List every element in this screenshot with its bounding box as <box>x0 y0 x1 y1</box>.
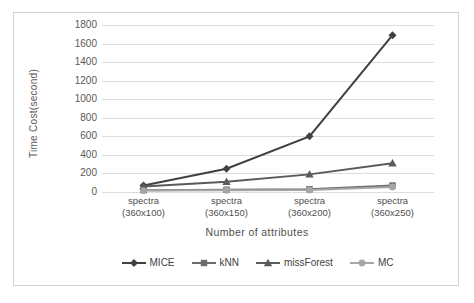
x-axis-tick-label-line1: spectra <box>185 195 268 207</box>
x-axis-tick-label: spectra(360x100) <box>102 195 185 219</box>
data-point-marker <box>140 187 147 194</box>
gridline <box>102 192 434 193</box>
data-point-marker <box>389 183 396 190</box>
data-point-marker <box>223 165 231 173</box>
legend-item-mice[interactable]: MICE <box>121 257 175 268</box>
series-mice <box>140 31 397 189</box>
series-line <box>144 35 393 185</box>
x-axis-tick-label-line2: (360x250) <box>351 207 434 219</box>
x-axis-ticks: spectra(360x100)spectra(360x150)spectra(… <box>102 195 434 219</box>
y-axis-tick-label: 800 <box>80 113 97 123</box>
chart-legend: MICEkNNmissForestMC <box>64 257 450 268</box>
x-axis-tick-label: spectra(360x150) <box>185 195 268 219</box>
plot-area: 180016001400120010008006004002000 <box>102 25 434 192</box>
series-layer <box>102 25 434 192</box>
x-axis-tick-label-line2: (360x100) <box>102 207 185 219</box>
series-line <box>144 163 393 186</box>
y-axis-title: Time Cost(second) <box>28 39 39 189</box>
y-axis-tick-label: 1400 <box>75 57 97 67</box>
legend-label: MC <box>378 257 394 268</box>
plot-wrapper: 180016001400120010008006004002000 spectr… <box>64 13 450 285</box>
y-axis-tick-label: 400 <box>80 150 97 160</box>
y-axis-tick-label: 600 <box>80 131 97 141</box>
data-point-marker <box>200 259 206 265</box>
legend-item-mc[interactable]: MC <box>349 257 394 268</box>
legend-label: kNN <box>220 257 239 268</box>
x-axis-title: Number of attributes <box>64 226 450 238</box>
data-point-marker <box>358 259 365 266</box>
y-axis-tick-label: 200 <box>80 168 97 178</box>
x-axis-tick-label-line1: spectra <box>351 195 434 207</box>
chart-container: Time Cost(second) 1800160014001200100080… <box>13 12 459 286</box>
data-point-marker <box>306 187 313 194</box>
legend-label: MICE <box>150 257 175 268</box>
y-axis-tick-label: 0 <box>91 187 97 197</box>
x-axis-tick-label: spectra(360x200) <box>268 195 351 219</box>
legend-item-knn[interactable]: kNN <box>191 257 239 268</box>
y-axis-tick-label: 1600 <box>75 39 97 49</box>
data-point-marker <box>130 259 138 267</box>
y-axis-tick-label: 1200 <box>75 76 97 86</box>
legend-key-square-icon <box>191 258 217 268</box>
y-axis-tick-label: 1000 <box>75 94 97 104</box>
legend-item-missforest[interactable]: missForest <box>255 257 333 268</box>
x-axis-tick-label-line2: (360x150) <box>185 207 268 219</box>
legend-key-diamond-icon <box>121 258 147 268</box>
x-axis-tick-label: spectra(360x250) <box>351 195 434 219</box>
legend-label: missForest <box>284 257 333 268</box>
legend-key-circle-icon <box>349 258 375 268</box>
data-point-marker <box>223 187 230 194</box>
series-missforest <box>139 159 396 190</box>
x-axis-tick-label-line1: spectra <box>102 195 185 207</box>
x-axis-tick-label-line1: spectra <box>268 195 351 207</box>
x-axis-tick-label-line2: (360x200) <box>268 207 351 219</box>
y-axis-tick-label: 1800 <box>75 20 97 30</box>
legend-key-triangle-icon <box>255 258 281 268</box>
